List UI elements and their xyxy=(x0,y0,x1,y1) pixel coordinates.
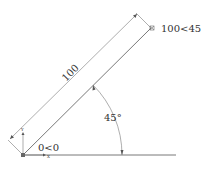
arc-arrow-bottom-icon xyxy=(121,150,124,155)
length-label: 100 xyxy=(60,62,81,83)
extension-line-end xyxy=(136,13,151,28)
extension-line-start xyxy=(8,140,23,155)
angle-label: 45° xyxy=(104,112,122,123)
cad-diagram: Y X 100<45 0<0 45° 100 xyxy=(0,0,202,172)
polar-line xyxy=(23,28,151,155)
start-point-label: 0<0 xyxy=(38,142,59,153)
ucs-x-label: X xyxy=(47,154,50,159)
ucs-y-label: Y xyxy=(20,127,24,132)
end-point-label: 100<45 xyxy=(161,23,201,34)
